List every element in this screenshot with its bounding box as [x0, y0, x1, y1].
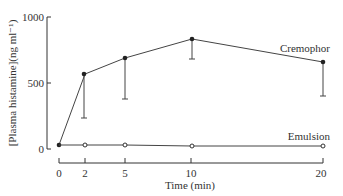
cremophor-point-5: [123, 56, 128, 61]
emulsion-point-20: [321, 144, 325, 148]
cremophor-point-10: [190, 37, 195, 42]
emulsion-point-2: [83, 143, 87, 147]
series-emulsion: Emulsion: [59, 130, 330, 148]
emulsion-point-10: [190, 144, 194, 148]
x-tick-0: 0: [56, 167, 62, 179]
x-axis: 0 2 5 10 20 Time (min): [56, 158, 327, 192]
y-tick-0: 0: [39, 143, 45, 155]
y-axis: 1000 500 0 [Plasma histamine](ng ml⁻¹): [6, 11, 51, 155]
x-tick-5: 5: [122, 167, 128, 179]
cremophor-point-2: [82, 72, 87, 77]
cremophor-point-20: [321, 60, 326, 65]
x-axis-title: Time (min): [165, 179, 215, 192]
chart: 1000 500 0 [Plasma histamine](ng ml⁻¹) 0…: [0, 0, 343, 196]
x-tick-20: 20: [316, 167, 328, 179]
cremophor-label: Cremophor: [280, 42, 330, 54]
y-tick-500: 500: [28, 77, 45, 89]
emulsion-point-5: [123, 143, 127, 147]
y-tick-1000: 1000: [22, 11, 45, 23]
x-tick-10: 10: [186, 167, 198, 179]
emulsion-label: Emulsion: [288, 130, 331, 142]
x-tick-2: 2: [82, 167, 88, 179]
y-axis-title: [Plasma histamine](ng ml⁻¹): [6, 19, 19, 146]
